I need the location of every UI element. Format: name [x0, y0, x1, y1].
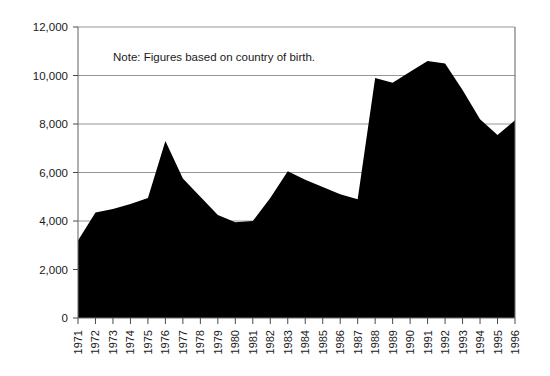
chart-container: 12,00010,0008,0006,0004,0002,0000 197119… [0, 0, 550, 376]
x-axis-tick-label: 1991 [422, 330, 434, 354]
y-axis-tick-label: 0 [62, 312, 68, 324]
y-axis-tick-label: 10,000 [33, 70, 68, 82]
x-axis-tick-label: 1990 [404, 330, 416, 354]
x-axis-tick-label: 1983 [282, 330, 294, 354]
series-area-immigrants [78, 61, 515, 318]
y-tick-labels-group: 12,00010,0008,0006,0004,0002,0000 [33, 21, 68, 324]
x-axis-tick-label: 1987 [352, 330, 364, 354]
x-axis-tick-label: 1985 [317, 330, 329, 354]
x-axis-tick-label: 1973 [107, 330, 119, 354]
y-axis-tick-label: 2,000 [39, 264, 68, 276]
x-axis-tick-label: 1994 [474, 330, 486, 354]
chart-note: Note: Figures based on country of birth. [113, 51, 315, 63]
x-axis-tick-label: 1980 [229, 330, 241, 354]
x-axis-tick-label: 1971 [72, 330, 84, 354]
x-axis-tick-label: 1995 [492, 330, 504, 354]
y-tick-marks-group [73, 27, 78, 318]
x-axis-tick-label: 1977 [177, 330, 189, 354]
x-axis-tick-label: 1984 [299, 330, 311, 354]
x-axis-tick-label: 1981 [247, 330, 259, 354]
x-axis-tick-label: 1992 [439, 330, 451, 354]
y-axis-tick-label: 4,000 [39, 215, 68, 227]
x-axis-tick-label: 1988 [369, 330, 381, 354]
y-axis-tick-label: 6,000 [39, 167, 68, 179]
x-tick-labels-group: 1971197219731974197519761977197819791980… [72, 330, 521, 354]
plot-area [78, 61, 515, 318]
x-axis-tick-label: 1982 [264, 330, 276, 354]
y-axis-tick-label: 8,000 [39, 118, 68, 130]
x-axis-tick-label: 1978 [194, 330, 206, 354]
x-axis-tick-label: 1993 [457, 330, 469, 354]
y-axis-tick-label: 12,000 [33, 21, 68, 33]
x-axis-tick-label: 1989 [387, 330, 399, 354]
x-axis-tick-label: 1974 [124, 330, 136, 354]
x-axis-tick-label: 1996 [509, 330, 521, 354]
x-axis-tick-label: 1979 [212, 330, 224, 354]
x-tick-marks-group [78, 318, 515, 324]
x-axis-tick-label: 1986 [334, 330, 346, 354]
area-chart: 12,00010,0008,0006,0004,0002,0000 197119… [0, 0, 550, 376]
x-axis-tick-label: 1976 [159, 330, 171, 354]
x-axis-tick-label: 1972 [89, 330, 101, 354]
x-axis-tick-label: 1975 [142, 330, 154, 354]
